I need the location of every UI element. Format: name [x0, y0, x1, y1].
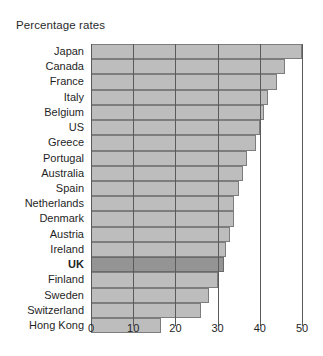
category-label: Japan — [0, 44, 88, 59]
bar — [91, 90, 268, 105]
category-label: US — [0, 120, 88, 135]
bar-row — [91, 227, 302, 242]
bar-row — [91, 181, 302, 196]
bar-row — [91, 90, 302, 105]
tick-label: 30 — [211, 322, 223, 334]
category-label: Australia — [0, 166, 88, 181]
category-label: Netherlands — [0, 196, 88, 211]
bar-row — [91, 135, 302, 150]
category-label: Greece — [0, 135, 88, 150]
bar-row — [91, 211, 302, 226]
percentage-rates-bar-chart: Percentage rates JapanCanadaFranceItalyB… — [0, 0, 323, 356]
category-label: Ireland — [0, 242, 88, 257]
bar — [91, 74, 277, 89]
bar — [91, 196, 234, 211]
bar — [91, 227, 230, 242]
bar — [91, 303, 201, 318]
value-axis-tick-labels: 01020304050 — [91, 322, 302, 340]
bar — [91, 211, 234, 226]
category-label: Italy — [0, 90, 88, 105]
bar-row — [91, 196, 302, 211]
bar — [91, 166, 243, 181]
category-axis-labels: JapanCanadaFranceItalyBelgiumUSGreecePor… — [0, 44, 88, 318]
tick-label: 10 — [127, 322, 139, 334]
bars-layer — [91, 44, 302, 318]
bar-row — [91, 105, 302, 120]
bar-row — [91, 257, 302, 272]
category-label: France — [0, 74, 88, 89]
category-label: Canada — [0, 59, 88, 74]
bar — [91, 59, 285, 74]
category-label: Portugal — [0, 151, 88, 166]
category-label: Switzerland — [0, 303, 88, 318]
category-label: Austria — [0, 227, 88, 242]
gridline — [302, 44, 303, 326]
bar-row — [91, 120, 302, 135]
bar — [91, 151, 247, 166]
bar-row — [91, 288, 302, 303]
bar-row — [91, 44, 302, 59]
bar — [91, 272, 218, 287]
category-label: Finland — [0, 272, 88, 287]
bar-row — [91, 166, 302, 181]
bar — [91, 135, 256, 150]
bar-row — [91, 59, 302, 74]
category-label: Spain — [0, 181, 88, 196]
bar-row — [91, 242, 302, 257]
category-label: Denmark — [0, 211, 88, 226]
plot-wrapper: JapanCanadaFranceItalyBelgiumUSGreecePor… — [0, 0, 323, 356]
tick-label: 20 — [169, 322, 181, 334]
bar-row — [91, 151, 302, 166]
category-label: UK — [0, 257, 88, 272]
bar — [91, 105, 264, 120]
category-label: Belgium — [0, 105, 88, 120]
category-label: Sweden — [0, 288, 88, 303]
category-label: Hong Kong — [0, 318, 88, 333]
tick-label: 50 — [296, 322, 308, 334]
tick-label: 40 — [254, 322, 266, 334]
tick-label: 0 — [88, 322, 94, 334]
bar-row — [91, 74, 302, 89]
bar — [91, 181, 239, 196]
bar — [91, 44, 302, 59]
bar — [91, 242, 226, 257]
bar — [91, 120, 260, 135]
bar-row — [91, 272, 302, 287]
bar — [91, 288, 209, 303]
bar — [91, 257, 224, 272]
bar-row — [91, 303, 302, 318]
